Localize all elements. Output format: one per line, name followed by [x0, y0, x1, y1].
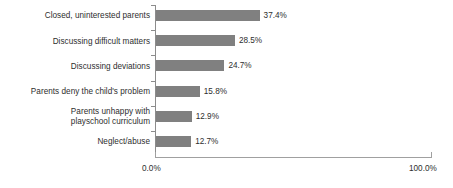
- value-axis-tick-min: [155, 152, 156, 158]
- category-label: Parents unhappy with playschool curricul…: [5, 107, 150, 128]
- bar-value-label: 28.5%: [239, 35, 262, 46]
- category-axis-tick: [151, 55, 155, 56]
- bar-chart: Closed, uninterested parents37.4%Discuss…: [0, 0, 453, 188]
- value-axis-label-max: 100.0%: [409, 164, 437, 173]
- value-axis-label-min: 0.0%: [142, 164, 161, 173]
- bar: [156, 111, 192, 122]
- category-label: Closed, uninterested parents: [5, 11, 150, 22]
- category-axis-tick: [151, 131, 155, 132]
- bar: [156, 86, 200, 97]
- bar-row: Neglect/abuse12.7%: [0, 131, 453, 156]
- bar-value-label: 12.7%: [195, 136, 218, 147]
- bar: [156, 35, 235, 46]
- category-label: Neglect/abuse: [5, 137, 150, 148]
- bar: [156, 10, 260, 21]
- bar-row: Parents deny the child's problem15.8%: [0, 81, 453, 106]
- bar-value-label: 37.4%: [264, 10, 287, 21]
- category-axis-tick: [151, 30, 155, 31]
- bar-row: Parents unhappy with playschool curricul…: [0, 106, 453, 131]
- bar-value-label: 12.9%: [196, 111, 219, 122]
- bar: [156, 60, 224, 71]
- category-label: Discussing deviations: [5, 62, 150, 73]
- bar-row: Closed, uninterested parents37.4%: [0, 5, 453, 30]
- category-axis-tick: [151, 106, 155, 107]
- value-axis-line: [155, 157, 432, 158]
- category-label: Parents deny the child's problem: [5, 87, 150, 98]
- category-label: Discussing difficult matters: [5, 37, 150, 48]
- bar-value-label: 24.7%: [228, 60, 251, 71]
- value-axis-tick-max: [431, 152, 432, 158]
- bar-row: Discussing deviations24.7%: [0, 55, 453, 80]
- bar-row: Discussing difficult matters28.5%: [0, 30, 453, 55]
- bar: [156, 136, 191, 147]
- bar-value-label: 15.8%: [204, 86, 227, 97]
- category-axis-tick: [151, 5, 155, 6]
- category-axis-tick: [151, 81, 155, 82]
